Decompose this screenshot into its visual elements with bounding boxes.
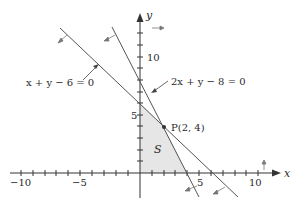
x-tick-label: −5 bbox=[72, 177, 87, 188]
pointer-arrow-icon bbox=[151, 88, 157, 93]
halfplane-arrow-icon bbox=[213, 190, 218, 194]
region-s bbox=[140, 103, 187, 173]
x-tick-label: 10 bbox=[249, 177, 262, 188]
x-tick-label: 5 bbox=[197, 177, 203, 188]
point-p bbox=[162, 125, 166, 129]
halfplane-arrow-icon bbox=[185, 187, 190, 191]
y-axis-arrow-icon bbox=[137, 13, 144, 22]
feasible-region-diagram: y x −10 −5 5 10 5 10 x + y − 6 = 0 2x + … bbox=[0, 0, 295, 201]
line-2-label: 2x + y − 8 = 0 bbox=[171, 76, 246, 87]
halfplane-arrow-icon bbox=[104, 37, 109, 41]
x-tick-label: −10 bbox=[10, 177, 31, 188]
x-axis-label: x bbox=[284, 167, 291, 180]
x-axis-arrow-icon bbox=[272, 170, 281, 177]
line-1-label: x + y − 6 = 0 bbox=[26, 77, 94, 88]
region-s-label: S bbox=[154, 143, 162, 156]
pointer-arrow-icon bbox=[93, 64, 99, 69]
y-tick-label: 10 bbox=[147, 52, 160, 63]
label-pointer bbox=[154, 81, 168, 91]
halfplane-arrow-icon bbox=[262, 160, 266, 164]
halfplane-arrow-icon bbox=[160, 26, 164, 30]
y-tick-label: 5 bbox=[131, 110, 137, 121]
y-axis-label: y bbox=[145, 9, 153, 22]
point-p-label: P(2, 4) bbox=[171, 122, 205, 133]
